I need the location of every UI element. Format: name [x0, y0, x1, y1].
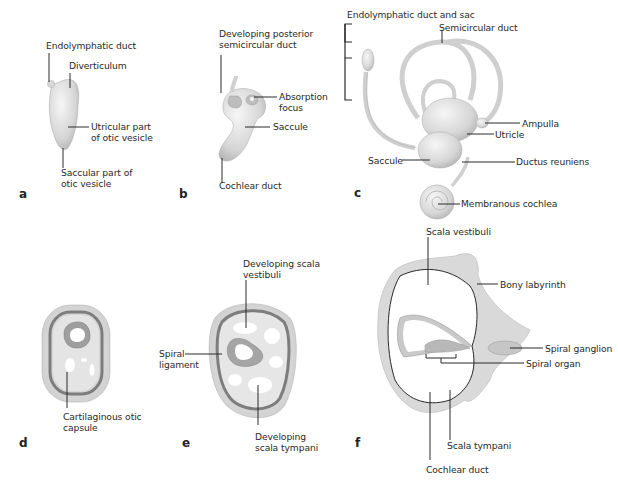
label-bony-labyrinth: Bony labyrinth	[500, 279, 566, 290]
label-developing-scala-tympani: Developing scala tympani	[255, 431, 318, 453]
label-diverticulum: Diverticulum	[69, 60, 127, 71]
label-cochlear-duct-b: Cochlear duct	[219, 180, 281, 191]
label-spiral-organ: Spiral organ	[526, 358, 580, 369]
panel-f-cochlear-duct-cross-section	[378, 237, 543, 460]
panel-letter-b: b	[179, 187, 188, 201]
label-spiral-ligament: Spiral ligament	[159, 348, 199, 370]
panel-letter-d: d	[19, 436, 28, 450]
label-developing-posterior-semicircular-duct: Developing posterior semicircular duct	[219, 28, 313, 50]
panel-letter-c: c	[354, 186, 361, 200]
label-developing-scala-vestibuli: Developing scala vestibuli	[243, 258, 320, 280]
panel-e-developing-scalae	[185, 280, 296, 425]
label-membranous-cochlea: Membranous cochlea	[461, 198, 557, 209]
label-scala-tympani: Scala tympani	[447, 440, 511, 451]
label-utricle: Utricle	[495, 129, 524, 140]
label-endolymphatic-duct: Endolymphatic duct	[46, 40, 136, 51]
label-cartilaginous-otic-capsule: Cartilaginous otic capsule	[63, 411, 142, 433]
panel-c-membranous-labyrinth	[345, 24, 520, 219]
label-ductus-reuniens: Ductus reuniens	[516, 156, 589, 167]
label-absorption-focus: Absorption focus	[279, 91, 328, 113]
label-endolymphatic-duct-and-sac: Endolymphatic duct and sac	[347, 9, 475, 20]
label-saccular-part: Saccular part of otic vesicle	[61, 167, 132, 189]
panel-letter-f: f	[355, 436, 360, 450]
label-cochlear-duct-f: Cochlear duct	[426, 464, 488, 475]
label-spiral-ganglion: Spiral ganglion	[545, 343, 612, 354]
label-semicircular-duct: Semicircular duct	[439, 22, 518, 33]
panel-letter-a: a	[19, 187, 27, 201]
panel-d-otic-capsule-cross-section	[42, 305, 110, 408]
label-utricular-part: Utricular part of otic vesicle	[91, 121, 153, 143]
label-saccule-c: Saccule	[368, 155, 403, 166]
label-ampulla: Ampulla	[522, 118, 559, 129]
label-saccule-b: Saccule	[273, 121, 308, 132]
panel-b-developing-labyrinth	[219, 55, 277, 183]
label-scala-vestibuli: Scala vestibuli	[426, 226, 491, 237]
panel-letter-e: e	[182, 436, 190, 450]
